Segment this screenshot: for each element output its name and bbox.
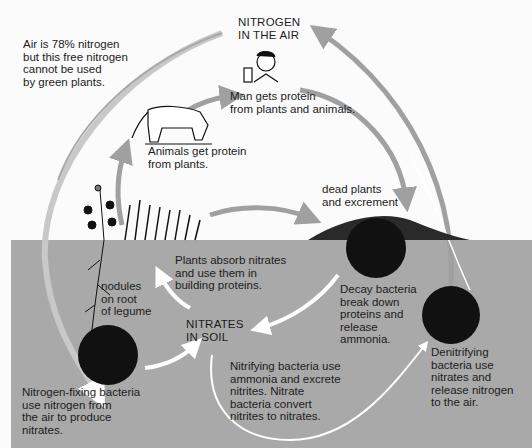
- arrow-fixing-to-nitrates: [145, 345, 195, 368]
- man-icon: [244, 52, 278, 82]
- denitrifying-bacteria-label: Denitrifying bacteria use nitrates and r…: [431, 346, 513, 409]
- dead-plants-label: dead plants and excrement: [322, 183, 398, 208]
- animals-label: Animals get protein from plants.: [148, 145, 246, 170]
- nodules-label: nodules on root of legume: [101, 280, 152, 318]
- nitrifying-bacteria-label: Nitrifying bacteria use ammonia and excr…: [230, 360, 341, 423]
- nitrates-in-soil-label: NITRATES IN SOIL: [186, 318, 244, 343]
- cow-icon: [132, 106, 212, 144]
- arrow-plants-to-animals: [118, 150, 125, 225]
- man-label: Man gets protein from plants and animals…: [230, 90, 355, 115]
- grass-icon: [125, 200, 200, 240]
- air-note-label: Air is 78% nitrogen but this free nitrog…: [23, 38, 128, 88]
- line-decay-to-denitrify: [410, 155, 470, 290]
- nitrogen-in-air-label: NITROGEN IN THE AIR: [238, 16, 300, 41]
- bacteria-circle-icon: [78, 325, 138, 385]
- decay-bacteria-label: Decay bacteria break down proteins and r…: [340, 283, 417, 346]
- nitrogen-fixing-bacteria-label: Nitrogen-fixing bacteria use nitrogen fr…: [22, 386, 140, 436]
- bacteria-circle-icon: [422, 286, 480, 344]
- plants-absorb-label: Plants absorb nitrates and use them in b…: [175, 254, 286, 292]
- bacteria-circle-icon: [346, 218, 406, 278]
- arrow-plants-to-dead: [210, 208, 310, 218]
